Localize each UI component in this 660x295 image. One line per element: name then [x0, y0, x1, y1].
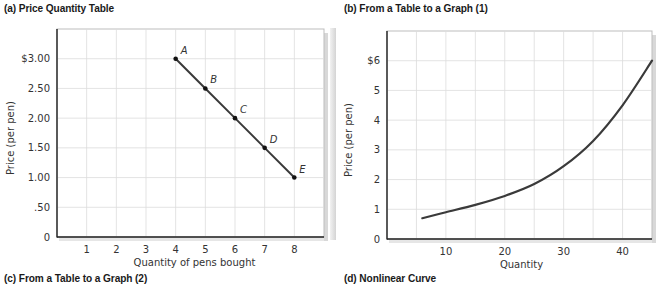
x-axis-title: Quantity of pens bought: [134, 257, 256, 268]
data-point: [262, 146, 267, 151]
x-tick-label: 7: [261, 244, 267, 255]
plot-area: [387, 31, 652, 239]
x-tick-label: 10: [440, 246, 453, 257]
chart-linear-price-quantity: 123456780.501.001.502.002.50$3.00Quantit…: [5, 29, 328, 268]
y-tick-label: 2: [374, 174, 380, 185]
x-tick-label: 30: [557, 246, 570, 257]
y-tick-label: $6: [367, 55, 380, 66]
y-axis-title: Price (per pen): [343, 103, 354, 177]
point-label-e: E: [299, 164, 306, 175]
x-tick-label: 4: [172, 244, 178, 255]
point-label-d: D: [270, 134, 278, 145]
x-tick-label: 1: [83, 244, 89, 255]
y-tick-label: 2.50: [28, 83, 50, 94]
frame-shadow: [324, 33, 328, 241]
chart-nonlinear-curve: 10203040012345$6QuantityPrice (per pen): [343, 31, 656, 270]
frame-shadow: [652, 35, 656, 243]
y-tick-label: 1.00: [28, 172, 50, 183]
y-tick-label: .50: [34, 202, 50, 213]
x-tick-label: 2: [113, 244, 119, 255]
y-tick-label: 1: [374, 204, 380, 215]
y-axis-title: Price (per pen): [5, 101, 16, 175]
x-tick-label: 6: [232, 244, 238, 255]
y-tick-label: 2.00: [28, 113, 50, 124]
charts-canvas: 123456780.501.001.502.002.50$3.00Quantit…: [0, 0, 660, 295]
y-tick-label: 1.50: [28, 142, 50, 153]
data-point: [292, 175, 297, 180]
x-tick-label: 3: [143, 244, 149, 255]
x-tick-label: 20: [498, 246, 511, 257]
data-point: [203, 86, 208, 91]
data-point: [173, 56, 178, 61]
y-tick-label: 0: [44, 232, 50, 243]
point-label-b: B: [210, 74, 217, 85]
data-point: [233, 116, 238, 121]
x-tick-label: 8: [291, 244, 297, 255]
x-tick-label: 5: [202, 244, 208, 255]
plot-area: [57, 29, 324, 237]
x-axis-title: Quantity: [500, 259, 543, 270]
y-tick-label: 4: [374, 115, 380, 126]
y-tick-label: 5: [374, 85, 380, 96]
y-tick-label: 3: [374, 144, 380, 155]
point-label-c: C: [240, 104, 247, 115]
x-tick-label: 40: [616, 246, 629, 257]
y-tick-label: 0: [374, 234, 380, 245]
point-label-a: A: [180, 45, 188, 56]
y-tick-label: $3.00: [21, 53, 50, 64]
